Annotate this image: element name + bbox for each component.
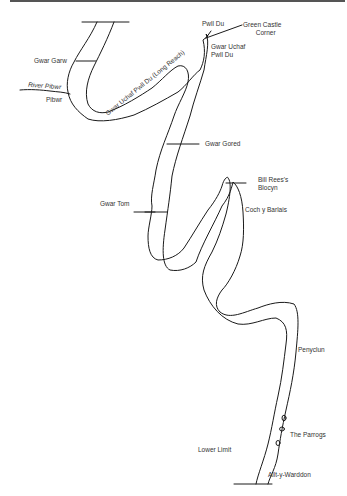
river-bank-left (67, 22, 298, 484)
river-bank-right (86, 22, 286, 484)
label-bill-rees-line2: Blocyn (258, 184, 278, 191)
label-green-castle-line1: Green Castle (243, 21, 281, 28)
label-pwll-du: Pwll Du (202, 20, 224, 28)
label-gwar-uchaf-line1: Gwar Uchaf (211, 43, 245, 50)
label-gwar-gored: Gwar Gored (205, 140, 240, 148)
river-map (0, 0, 347, 496)
label-penyclun: Penyclun (298, 346, 325, 354)
label-lower-limit: Lower Limit (198, 446, 231, 454)
label-gwar-tom: Gwar Tom (100, 200, 130, 208)
label-green-castle-corner: Green Castle Corner (243, 21, 281, 37)
label-gwar-garw: Gwar Garw (34, 57, 67, 65)
label-gwar-uchaf-pwll-du: Gwar Uchaf Pwll Du (211, 43, 245, 59)
label-allt-y-warddon: Allt-y-Warddon (268, 471, 311, 479)
label-the-parrogs: The Parrogs (290, 431, 326, 439)
label-gwar-uchaf-line2: Pwll Du (211, 51, 233, 58)
river-pibwr-tributary (20, 90, 70, 94)
label-coch-y-barlais: Coch y Barlais (245, 206, 287, 214)
label-bill-rees-line1: Bill Rees's (258, 176, 288, 183)
label-pibwr: Pibwr (46, 96, 62, 104)
label-green-castle-line2: Corner (249, 29, 276, 36)
label-bill-rees-blocyn: Bill Rees's Blocyn (258, 176, 288, 192)
